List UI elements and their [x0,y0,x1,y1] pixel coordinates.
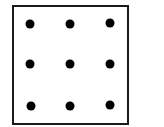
dot-r1-c1 [66,60,75,69]
dot-r0-c0 [26,20,35,29]
dot-r1-c2 [106,60,115,69]
dot-r2-c0 [27,102,36,111]
dot-r0-c2 [106,19,115,28]
dot-r0-c1 [66,20,75,29]
dot-r1-c0 [26,60,35,69]
dot-r2-c1 [66,102,75,111]
dot-r2-c2 [106,101,115,110]
